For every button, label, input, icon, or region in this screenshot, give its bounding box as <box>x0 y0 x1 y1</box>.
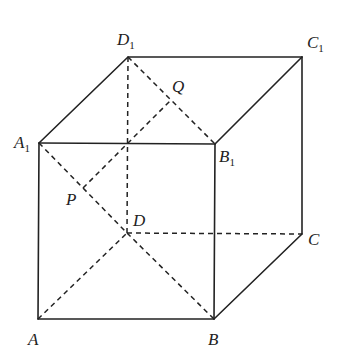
vertex-label-a1: A1 <box>13 133 30 154</box>
dashed-edge-d-b <box>127 233 214 319</box>
vertex-label-b: B <box>208 330 219 349</box>
edge-b-c <box>214 234 302 319</box>
vertex-label-d1: D1 <box>116 30 135 51</box>
edge-b-b1 <box>214 144 215 319</box>
vertex-label-c: C <box>308 230 320 249</box>
vertex-label-b1: B1 <box>219 147 235 168</box>
edge-b1-c1 <box>215 57 302 144</box>
vertex-label-c1: C1 <box>307 33 324 54</box>
dashed-edge-a-d <box>38 233 127 319</box>
edge-d1-a1 <box>39 57 128 143</box>
vertex-label-q: Q <box>172 77 184 96</box>
dashed-edge-p-q <box>83 101 170 188</box>
dashed-edge-d-d1 <box>127 57 128 233</box>
vertex-labels: ABCDA1B1C1D1PQ <box>13 30 324 349</box>
edge-a1-b1 <box>39 143 215 144</box>
cube-diagram: ABCDA1B1C1D1PQ <box>0 0 345 364</box>
vertex-label-a: A <box>27 330 39 349</box>
vertex-label-p: P <box>65 190 76 209</box>
vertex-label-d: D <box>132 211 146 230</box>
edge-a1-a <box>38 143 39 319</box>
